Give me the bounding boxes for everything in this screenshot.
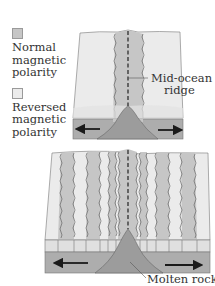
diagram: Mid-ocean ridge	[0, 0, 215, 286]
top-block: Mid-ocean ridge	[73, 30, 213, 139]
ridge-label-line2: ridge	[164, 83, 195, 97]
molten-rock-label: Molten rock	[147, 272, 215, 286]
bottom-block: Molten rock	[45, 149, 215, 286]
